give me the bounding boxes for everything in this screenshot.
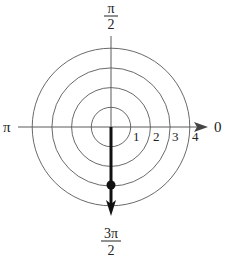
ring-label-2: 2 [153,129,160,144]
polar-diagram: 1 2 3 4 0 π π 2 3π 2 [0,0,226,266]
fraction-denominator: 2 [108,17,115,32]
ring-label-4: 4 [192,129,199,144]
plotted-point [107,181,116,190]
angle-label-pi: π [3,119,11,135]
fraction-numerator: 3π [104,226,118,241]
angle-label-0: 0 [214,119,222,135]
ring-label-1: 1 [133,129,140,144]
fraction-denominator: 2 [108,243,115,258]
ring-label-3: 3 [172,129,179,144]
angle-label-pi-over-2: π 2 [104,1,118,32]
fraction-numerator: π [107,1,114,16]
angle-label-3pi-over-2: 3π 2 [101,226,121,258]
